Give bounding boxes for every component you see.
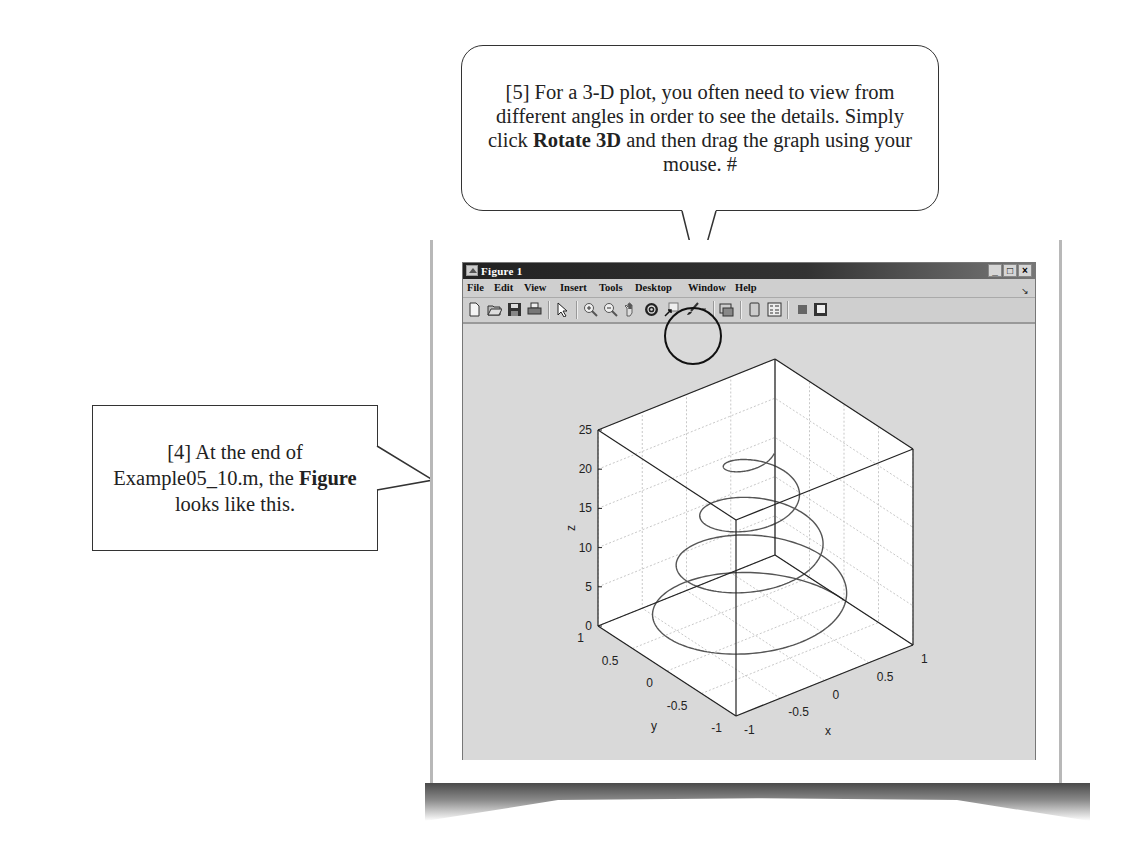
svg-text:1: 1 [577, 631, 584, 645]
svg-text:-0.5: -0.5 [667, 699, 688, 713]
svg-text:0: 0 [833, 688, 840, 702]
svg-text:-1: -1 [744, 723, 755, 737]
svg-text:20: 20 [579, 462, 593, 476]
svg-text:5: 5 [585, 580, 592, 594]
svg-text:y: y [651, 719, 657, 733]
svg-text:-0.5: -0.5 [788, 705, 809, 719]
svg-text:0: 0 [646, 676, 653, 690]
svg-text:x: x [825, 724, 831, 738]
svg-text:-1: -1 [711, 721, 722, 735]
svg-text:25: 25 [579, 423, 593, 437]
svg-text:0.5: 0.5 [602, 654, 619, 668]
svg-text:10: 10 [579, 541, 593, 555]
rotate-3d-highlight [664, 307, 722, 365]
helix-3d-plot[interactable]: 0510152025-1-0.500.51-1-0.500.51zyx [0, 0, 1121, 859]
svg-text:1: 1 [921, 652, 928, 666]
svg-text:z: z [564, 525, 578, 531]
svg-text:15: 15 [579, 501, 593, 515]
svg-text:0: 0 [585, 619, 592, 633]
svg-text:0.5: 0.5 [877, 670, 894, 684]
